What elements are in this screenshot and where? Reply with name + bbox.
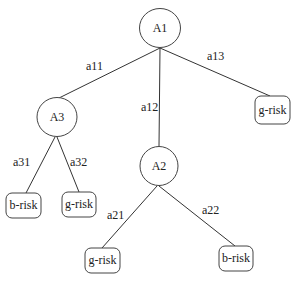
- edge-a31: [26, 137, 55, 193]
- edge-a12: [159, 48, 160, 146]
- edge-a22: [159, 186, 235, 246]
- leaf-label-a22: b-risk: [222, 251, 250, 265]
- leaf-label-a21: g-risk: [89, 253, 117, 267]
- edge-a11: [59, 48, 160, 98]
- leaf-label-a32: g-risk: [65, 197, 93, 211]
- edge-label-a31: a31: [13, 155, 30, 169]
- edge-label-a11: a11: [86, 59, 103, 73]
- node-label-A2: A2: [152, 159, 167, 173]
- edge-label-a12: a12: [141, 100, 158, 114]
- edge-label-a21: a21: [107, 208, 124, 222]
- leaf-label-a31: b-risk: [10, 198, 38, 212]
- leaf-label-a13: g-risk: [259, 103, 287, 117]
- edge-label-a32: a32: [70, 155, 87, 169]
- edge-label-a22: a22: [202, 203, 219, 217]
- node-label-A1: A1: [153, 21, 168, 35]
- node-label-A3: A3: [50, 110, 65, 124]
- edge-label-a13: a13: [207, 49, 224, 63]
- decision-tree-diagram: A1 A3 A2 g-risk b-risk g-risk g-risk b-r…: [0, 0, 295, 281]
